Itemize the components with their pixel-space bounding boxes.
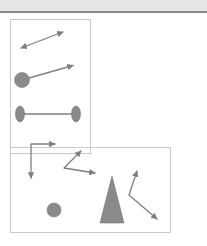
diagram-canvas [0, 0, 207, 246]
elbow-arrow [31, 144, 55, 178]
small-circle [47, 203, 61, 217]
chevron-arrow [64, 151, 95, 173]
vector-diagram [0, 13, 207, 246]
bent-double-arrow [129, 171, 157, 219]
lower-right-panel [11, 148, 171, 233]
triangle-cone [100, 176, 124, 223]
dumbbell-right-ellipse [72, 106, 81, 122]
circle-arrow-circle [15, 73, 30, 88]
dumbbell-left-ellipse [16, 106, 25, 122]
header-band [0, 0, 207, 11]
